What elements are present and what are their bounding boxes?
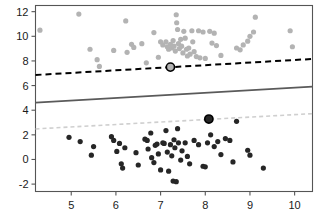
y-tick-label: 12: [16, 6, 28, 17]
data-point: [181, 29, 186, 34]
data-point: [37, 28, 42, 33]
data-point: [165, 149, 170, 154]
data-point: [144, 60, 149, 65]
plot-frame: [36, 6, 313, 192]
data-point: [156, 151, 161, 156]
data-point: [290, 44, 295, 49]
y-tick-label: 2: [22, 129, 28, 140]
upper-highlight-marker: [166, 63, 174, 71]
scatter-plot-figure: -2024681012 5678910: [0, 0, 327, 219]
data-point: [163, 128, 168, 133]
data-point: [196, 28, 201, 33]
data-point: [156, 55, 161, 60]
data-point: [245, 148, 250, 153]
data-point: [111, 48, 116, 53]
data-point: [208, 132, 213, 137]
data-point: [261, 166, 266, 171]
data-point: [154, 141, 159, 146]
data-point: [207, 29, 212, 34]
lower-highlight-marker: [205, 115, 213, 123]
data-point: [200, 29, 205, 34]
data-point: [247, 153, 252, 158]
x-tick-label: 5: [68, 200, 74, 211]
data-point: [230, 159, 235, 164]
data-point: [218, 53, 223, 58]
data-point: [171, 44, 176, 49]
data-point: [169, 153, 174, 158]
y-tick-label: 4: [22, 105, 28, 116]
data-point: [178, 157, 183, 162]
y-tick-label: -2: [19, 179, 29, 190]
data-point: [218, 152, 223, 157]
data-point: [131, 45, 136, 50]
data-point: [78, 139, 83, 144]
data-point: [171, 137, 176, 142]
data-point: [139, 41, 144, 46]
data-point: [162, 141, 167, 146]
data-point: [163, 39, 168, 44]
data-point: [187, 161, 192, 166]
data-point: [145, 138, 150, 143]
data-point: [149, 155, 154, 160]
data-point: [120, 166, 125, 171]
data-point: [185, 154, 190, 159]
data-point: [114, 149, 119, 154]
data-point: [205, 140, 210, 145]
data-point: [183, 140, 188, 145]
data-point: [117, 141, 122, 146]
plot-canvas: [0, 0, 327, 219]
y-tick-label: 0: [22, 154, 28, 165]
data-point: [151, 30, 156, 35]
data-point: [174, 12, 179, 17]
x-tick-label: 6: [113, 200, 119, 211]
data-point: [174, 179, 179, 184]
data-point: [196, 142, 201, 147]
data-point: [197, 55, 202, 60]
data-point: [123, 18, 128, 23]
data-point: [172, 145, 177, 150]
data-point: [166, 169, 171, 174]
x-tick-label: 10: [289, 200, 301, 211]
data-point: [178, 37, 183, 42]
data-point: [168, 142, 173, 147]
data-point: [179, 44, 184, 49]
plot-border: [36, 6, 313, 192]
data-point: [190, 39, 195, 44]
data-point: [247, 34, 252, 39]
y-tick-label: 8: [22, 55, 28, 66]
data-point: [89, 153, 94, 158]
data-point: [192, 49, 197, 54]
data-point: [66, 135, 71, 140]
data-point: [214, 43, 219, 48]
data-point: [124, 50, 129, 55]
x-tick-label: 7: [158, 200, 164, 211]
data-point: [238, 47, 243, 52]
data-point: [145, 146, 150, 151]
data-point: [212, 31, 217, 36]
data-point: [133, 150, 138, 155]
y-tick-label: 6: [22, 80, 28, 91]
data-point: [179, 148, 184, 153]
data-point: [253, 15, 258, 20]
data-point: [203, 164, 208, 169]
x-tick-label: 8: [202, 200, 208, 211]
data-point: [122, 145, 127, 150]
data-point: [95, 57, 100, 62]
data-point: [245, 39, 250, 44]
data-point: [175, 27, 180, 32]
data-point: [241, 42, 246, 47]
data-point: [174, 20, 179, 25]
data-point: [203, 56, 208, 61]
data-point: [183, 36, 188, 41]
data-point: [215, 139, 220, 144]
data-point: [87, 47, 92, 52]
y-tick-label: 10: [16, 31, 28, 42]
data-point: [234, 119, 239, 124]
data-point: [136, 162, 141, 167]
data-point: [192, 138, 197, 143]
data-point: [97, 64, 102, 69]
data-point: [189, 28, 194, 33]
data-point: [288, 28, 293, 33]
data-point: [76, 12, 81, 17]
data-point: [251, 29, 256, 34]
